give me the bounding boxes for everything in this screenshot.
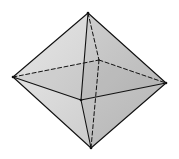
vertex-top (87, 12, 90, 15)
vertex-front (80, 99, 83, 102)
vertex-left (12, 76, 15, 79)
vertex-bottom (90, 147, 93, 150)
octahedron-figure (0, 0, 179, 159)
octahedron-faces (13, 13, 166, 148)
vertex-right (165, 82, 168, 85)
diagram-canvas (0, 0, 179, 159)
